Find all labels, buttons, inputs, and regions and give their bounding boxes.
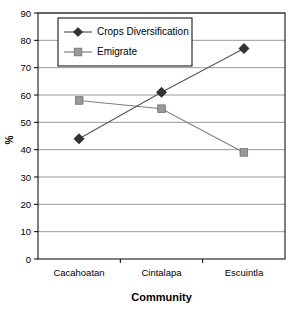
ytick-label-90: 90 <box>20 8 31 19</box>
x-axis-tick-labels: Cacahoatan Cintalapa Escuintla <box>53 267 264 278</box>
ytick-label-20: 20 <box>20 199 31 210</box>
x-axis-title: Community <box>131 291 192 303</box>
y-axis-ticks <box>34 13 38 259</box>
ytick-label-60: 60 <box>20 90 31 101</box>
legend-label-crops-diversification: Crops Diversification <box>97 26 189 37</box>
series-emigrate-point-cacahoatan <box>75 97 83 105</box>
ytick-label-40: 40 <box>20 144 31 155</box>
legend-label-emigrate: Emigrate <box>97 46 137 57</box>
series-emigrate-point-escuintla <box>240 149 248 157</box>
line-chart: 90 80 70 60 50 40 30 20 10 0 % Cacahoata… <box>0 0 301 312</box>
chart-canvas: 90 80 70 60 50 40 30 20 10 0 % Cacahoata… <box>0 0 301 312</box>
ytick-label-10: 10 <box>20 226 31 237</box>
ytick-label-50: 50 <box>20 117 31 128</box>
square-marker-icon <box>74 48 82 56</box>
y-axis-tick-labels: 90 80 70 60 50 40 30 20 10 0 <box>20 8 31 265</box>
series-emigrate-point-cintalapa <box>158 105 166 113</box>
xtick-label-cintalapa: Cintalapa <box>141 267 182 278</box>
ytick-label-70: 70 <box>20 62 31 73</box>
ytick-label-30: 30 <box>20 172 31 183</box>
ytick-label-80: 80 <box>20 35 31 46</box>
y-axis-title: % <box>4 135 15 144</box>
xtick-label-cacahoatan: Cacahoatan <box>53 267 104 278</box>
x-axis-ticks <box>120 259 202 263</box>
xtick-label-escuintla: Escuintla <box>225 267 264 278</box>
ytick-label-0: 0 <box>26 254 31 265</box>
legend: Crops Diversification Emigrate <box>58 18 192 66</box>
